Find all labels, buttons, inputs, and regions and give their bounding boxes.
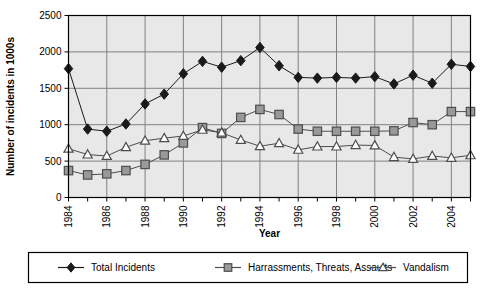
data-point: [237, 113, 245, 121]
x-tick-label: 1996: [293, 205, 304, 228]
chart-container: 05001000150020002500 1984198619881990199…: [0, 0, 496, 295]
data-point: [122, 166, 130, 174]
incidents-line-chart: 05001000150020002500 1984198619881990199…: [0, 0, 496, 295]
x-tick-label: 1994: [254, 205, 265, 228]
y-axis-label: Number of incidents in 1000s: [5, 37, 16, 176]
x-tick-label: 1984: [63, 205, 74, 228]
data-point: [160, 151, 168, 159]
x-axis-label: Year: [259, 228, 280, 239]
data-point: [103, 170, 111, 178]
x-tick-label: 1998: [331, 205, 342, 228]
x-tick-label: 2004: [446, 205, 457, 228]
legend-label: Total Incidents: [91, 262, 155, 273]
data-point: [275, 110, 283, 118]
data-point: [141, 160, 149, 168]
x-tick-label: 1990: [178, 205, 189, 228]
legend-marker-square-icon: [224, 264, 232, 272]
y-tick-label: 0: [56, 192, 62, 203]
data-point: [447, 107, 455, 115]
data-point: [332, 127, 340, 135]
data-point: [294, 125, 302, 133]
data-point: [256, 105, 264, 113]
y-tick-label: 500: [45, 156, 62, 167]
legend-label: Vandalism: [403, 262, 449, 273]
data-point: [409, 118, 417, 126]
data-point: [371, 127, 379, 135]
y-tick-label: 2500: [39, 10, 62, 21]
x-tick-label: 2002: [408, 205, 419, 228]
data-point: [351, 127, 359, 135]
data-point: [83, 171, 91, 179]
y-tick-label: 1500: [39, 83, 62, 94]
x-tick-label: 1986: [101, 205, 112, 228]
data-point: [313, 127, 321, 135]
data-point: [428, 121, 436, 129]
x-tick-label: 1988: [140, 205, 151, 228]
legend: Total IncidentsHarrassments, Threats, As…: [29, 253, 468, 283]
y-tick-label: 2000: [39, 46, 62, 57]
y-tick-label: 1000: [39, 119, 62, 130]
x-tick-label: 1992: [216, 205, 227, 228]
data-point: [390, 127, 398, 135]
x-tick-label: 2000: [369, 205, 380, 228]
